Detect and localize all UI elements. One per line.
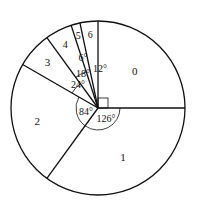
slice-label-5: 5 — [76, 30, 81, 41]
angle-label: 12° — [93, 63, 107, 74]
pie-chart: 0654321126°84°24°18°6°12° — [0, 0, 200, 207]
slice-label-1: 1 — [120, 151, 126, 163]
slice-label-2: 2 — [35, 115, 41, 127]
slice-label-3: 3 — [45, 56, 51, 68]
angle-label: 84° — [79, 106, 93, 117]
slice-label-0: 0 — [132, 65, 138, 77]
slice-label-4: 4 — [63, 39, 68, 50]
angle-label: 18° — [76, 68, 90, 79]
slice-label-6: 6 — [88, 29, 93, 40]
angle-label: 6° — [79, 52, 88, 63]
angle-label: 126° — [97, 113, 116, 124]
angle-label: 24° — [71, 79, 85, 90]
